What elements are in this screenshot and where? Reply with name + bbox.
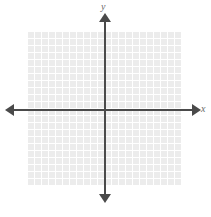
x-axis-arrow-right-icon	[192, 104, 201, 116]
x-axis-arrow-left-icon	[5, 104, 14, 116]
x-axis-label: x	[201, 104, 205, 114]
y-axis-line	[104, 21, 106, 195]
coordinate-plane-figure: y x	[0, 0, 211, 217]
x-axis-line	[12, 109, 194, 111]
y-axis-arrow-down-icon	[99, 194, 111, 203]
y-axis-arrow-up-icon	[99, 13, 111, 22]
y-axis-label: y	[101, 2, 105, 12]
